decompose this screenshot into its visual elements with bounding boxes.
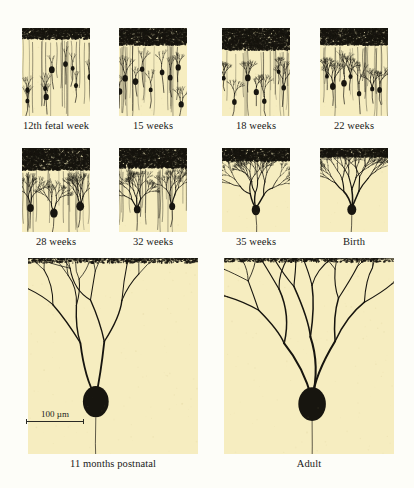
p2-drawing: [119, 28, 187, 116]
caption-15-weeks: 15 weeks: [99, 120, 207, 131]
panel-22-weeks: [320, 28, 388, 116]
caption-11-months-postnatal: 11 months postnatal: [28, 458, 198, 469]
p1-drawing: [22, 28, 90, 116]
caption-28-weeks: 28 weeks: [2, 236, 110, 247]
purkinje-development-figure: 12th fetal week 15 weeks 18 weeks 22 wee…: [0, 0, 414, 488]
p7-drawing: [222, 148, 290, 232]
panel-birth: [320, 148, 388, 232]
panel-15-weeks: [119, 28, 187, 116]
p9-drawing: [28, 258, 198, 454]
caption-18-weeks: 18 weeks: [202, 120, 310, 131]
caption-12th-fetal-week: 12th fetal week: [2, 120, 110, 131]
panel-32-weeks: [119, 148, 187, 232]
panel-adult: [224, 258, 394, 454]
p3-drawing: [222, 28, 290, 116]
panel-18-weeks: [222, 28, 290, 116]
caption-35-weeks: 35 weeks: [202, 236, 310, 247]
p10-drawing: [224, 258, 394, 454]
panel-35-weeks: [222, 148, 290, 232]
caption-adult: Adult: [224, 458, 394, 469]
panel-11-months-postnatal: [28, 258, 198, 454]
caption-birth: Birth: [300, 236, 408, 247]
caption-22-weeks: 22 weeks: [300, 120, 408, 131]
p6-drawing: [119, 148, 187, 232]
caption-32-weeks: 32 weeks: [99, 236, 207, 247]
p8-drawing: [320, 148, 388, 232]
p5-drawing: [22, 148, 90, 232]
p4-drawing: [320, 28, 388, 116]
panel-12th-fetal-week: [22, 28, 90, 116]
panel-28-weeks: [22, 148, 90, 232]
